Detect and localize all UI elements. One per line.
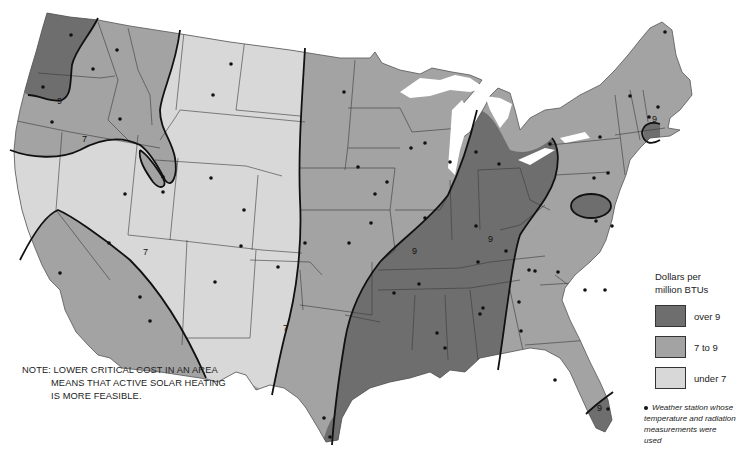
legend-item-under-7: under 7 xyxy=(655,367,735,389)
weather-station-dot xyxy=(435,331,439,335)
weather-station-dot xyxy=(369,221,373,225)
weather-station-dot xyxy=(533,269,537,273)
weather-station-dot xyxy=(115,48,119,52)
contour-label: 7 xyxy=(283,323,288,333)
note-line-1: NOTE: LOWER CRITICAL COST IN AN AREA xyxy=(22,364,226,377)
feasibility-note: NOTE: LOWER CRITICAL COST IN AN AREA MEA… xyxy=(22,364,226,403)
weather-station-dot xyxy=(583,288,587,292)
weather-station-dot xyxy=(519,329,523,333)
weather-station-dot xyxy=(41,85,45,89)
weather-station-dot xyxy=(347,241,351,245)
weather-station-dot xyxy=(598,135,602,139)
legend-swatch-7-to-9 xyxy=(655,336,686,358)
weather-station-dot xyxy=(628,94,632,98)
legend-swatch-under-7 xyxy=(655,367,686,389)
legend-item-over-9: over 9 xyxy=(655,305,735,327)
contour-label: 9 xyxy=(488,234,493,244)
legend-item-7-to-9: 7 to 9 xyxy=(655,336,735,358)
weather-station-dot xyxy=(276,265,280,269)
note-line-3: IS MORE FEASIBLE. xyxy=(22,390,226,403)
contour-label: 9 xyxy=(652,114,657,124)
weather-station-dot xyxy=(417,282,421,286)
legend-station-key: Weather station whose temperature and ra… xyxy=(644,402,736,446)
weather-station-dot xyxy=(148,319,152,323)
legend-station-text: Weather station whose temperature and ra… xyxy=(644,403,736,445)
weather-station-dot xyxy=(423,216,427,220)
weather-station-dot xyxy=(161,190,165,194)
weather-station-dot xyxy=(656,105,660,109)
weather-station-dot xyxy=(663,30,667,34)
weather-station-dot xyxy=(50,120,54,124)
legend-label-7-to-9: 7 to 9 xyxy=(694,342,718,353)
weather-station-dot xyxy=(606,171,610,175)
weather-station-dot xyxy=(373,192,377,196)
weather-station-dot xyxy=(594,219,598,223)
legend-label-under-7: under 7 xyxy=(694,373,726,384)
weather-station-dot xyxy=(123,192,127,196)
weather-station-dot xyxy=(478,312,482,316)
weather-station-dot xyxy=(423,141,427,145)
note-line-2: MEANS THAT ACTIVE SOLAR HEATING xyxy=(22,377,226,390)
weather-station-dot xyxy=(481,306,485,310)
contour-label: 9 xyxy=(57,96,62,106)
weather-station-dot xyxy=(603,288,607,292)
weather-station-dot xyxy=(328,435,332,439)
weather-station-dot xyxy=(161,175,165,179)
weather-station-dot xyxy=(138,295,142,299)
weather-station-dot xyxy=(385,180,389,184)
weather-station-dot xyxy=(58,271,62,275)
weather-station-dot xyxy=(211,93,215,97)
contour-label: 9 xyxy=(597,403,602,413)
weather-station-dot xyxy=(610,224,614,228)
weather-station-dot xyxy=(497,162,501,166)
contour-label: 9 xyxy=(412,246,417,256)
contour-label: 7 xyxy=(143,247,148,257)
weather-station-dot xyxy=(474,150,478,154)
station-dot-icon xyxy=(644,406,648,410)
weather-station-dot xyxy=(443,346,447,350)
weather-station-dot xyxy=(548,142,552,146)
weather-station-dot xyxy=(592,176,596,180)
legend-swatch-over-9 xyxy=(655,305,686,327)
weather-station-dot xyxy=(91,67,95,71)
weather-station-dot xyxy=(647,115,651,119)
weather-station-dot xyxy=(209,176,213,180)
weather-station-dot xyxy=(517,300,521,304)
weather-station-dot xyxy=(448,160,452,164)
weather-station-dot xyxy=(409,146,413,150)
legend-title-line-2: million BTUs xyxy=(655,283,735,296)
weather-station-dot xyxy=(229,62,233,66)
weather-station-dot xyxy=(69,33,73,37)
weather-station-dot xyxy=(322,416,326,420)
contour-label: 7 xyxy=(82,134,87,144)
legend: Dollars per million BTUs over 9 7 to 9 u… xyxy=(655,270,735,389)
weather-station-dot xyxy=(118,117,122,121)
weather-station-dot xyxy=(527,268,531,272)
weather-station-dot xyxy=(504,249,508,253)
weather-station-dot xyxy=(242,208,246,212)
legend-title-line-1: Dollars per xyxy=(655,270,735,283)
weather-station-dot xyxy=(606,407,610,411)
weather-station-dot xyxy=(556,270,560,274)
weather-station-dot xyxy=(213,280,217,284)
weather-station-dot xyxy=(356,165,360,169)
weather-station-dot xyxy=(342,90,346,94)
weather-station-dot xyxy=(239,244,243,248)
weather-station-dot xyxy=(107,241,111,245)
weather-station-dot xyxy=(303,241,307,245)
legend-label-over-9: over 9 xyxy=(694,311,720,322)
weather-station-dot xyxy=(474,224,478,228)
weather-station-dot xyxy=(553,378,557,382)
weather-station-dot xyxy=(476,260,480,264)
weather-station-dot xyxy=(392,291,396,295)
